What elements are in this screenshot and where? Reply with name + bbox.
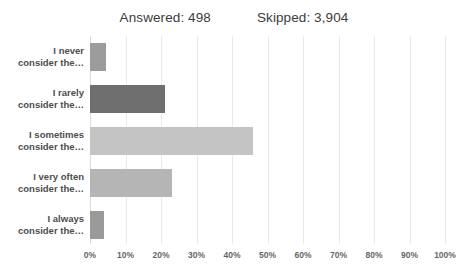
category-label-line: consider the…	[18, 141, 84, 154]
x-tick-label: 90%	[401, 250, 418, 260]
category-label-line: consider the…	[18, 99, 84, 112]
category-label: I rarelyconsider the…	[0, 78, 84, 120]
bar-row	[90, 36, 445, 78]
category-label: I neverconsider the…	[0, 36, 84, 78]
category-label: I very oftenconsider the…	[0, 162, 84, 204]
bar[interactable]	[90, 127, 253, 155]
category-label-line: I very often	[33, 171, 84, 184]
bar-row	[90, 78, 445, 120]
bar[interactable]	[90, 43, 106, 71]
x-tick-label: 10%	[117, 250, 134, 260]
plot-area	[90, 36, 445, 244]
x-tick-label: 60%	[294, 250, 311, 260]
x-tick-label: 30%	[188, 250, 205, 260]
x-tick-label: 50%	[259, 250, 276, 260]
category-label-line: I rarely	[53, 87, 84, 100]
bar[interactable]	[90, 85, 165, 113]
bar[interactable]	[90, 211, 104, 239]
answered-count: Answered: 498	[120, 10, 211, 25]
category-label: I sometimesconsider the…	[0, 120, 84, 162]
x-axis-ticks: 0%10%20%30%40%50%60%70%80%90%100%	[90, 244, 445, 264]
x-tick-label: 100%	[434, 250, 456, 260]
bar[interactable]	[90, 169, 172, 197]
category-label-line: consider the…	[18, 183, 84, 196]
skipped-count: Skipped: 3,904	[257, 10, 348, 25]
category-label-line: I never	[53, 45, 84, 58]
category-axis-labels: I neverconsider the…I rarelyconsider the…	[0, 36, 84, 244]
bar-row	[90, 120, 445, 162]
gridline	[445, 36, 446, 244]
bar-row	[90, 162, 445, 204]
category-label-line: consider the…	[18, 225, 84, 238]
x-tick-label: 80%	[365, 250, 382, 260]
bar-row	[90, 204, 445, 246]
category-label-line: consider the…	[18, 57, 84, 70]
category-label-line: I sometimes	[29, 129, 84, 142]
x-tick-label: 0%	[84, 250, 96, 260]
category-label: I alwaysconsider the…	[0, 204, 84, 246]
x-tick-label: 40%	[223, 250, 240, 260]
survey-response-summary: Answered: 498 Skipped: 3,904	[0, 6, 468, 28]
x-tick-label: 20%	[152, 250, 169, 260]
bar-rows	[90, 36, 445, 244]
horizontal-bar-chart: I neverconsider the…I rarelyconsider the…	[0, 36, 468, 278]
category-label-line: I always	[48, 213, 84, 226]
x-tick-label: 70%	[330, 250, 347, 260]
